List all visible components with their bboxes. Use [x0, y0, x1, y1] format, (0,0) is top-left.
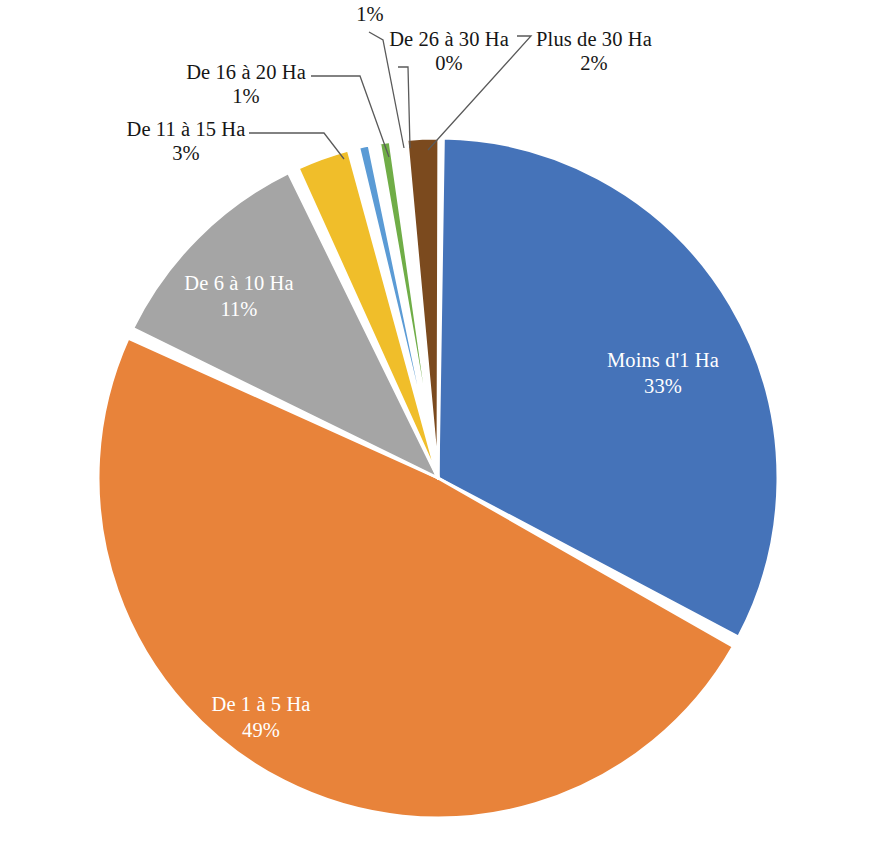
slice-label-de-1-a-5-ha-category: De 1 à 5 Ha [211, 692, 310, 718]
pie-chart: Moins d'1 Ha 33% De 1 à 5 Ha 49% De 6 à … [0, 0, 884, 854]
leader-line-de-16-a-20-ha [311, 76, 389, 157]
callout-label-de-21-a-25-ha-percent: 1% [356, 2, 384, 26]
slice-label-moins-d-1-ha-category: Moins d'1 Ha [607, 348, 719, 374]
callout-label-plus-de-30-ha-category: Plus de 30 Ha [536, 27, 652, 51]
callout-label-de-16-a-20-ha-category: De 16 à 20 Ha [186, 60, 306, 84]
slice-label-de-6-a-10-ha-category: De 6 à 10 Ha [184, 271, 293, 297]
slice-label-moins-d-1-ha: Moins d'1 Ha 33% [607, 348, 719, 399]
callout-label-plus-de-30-ha-percent: 2% [536, 51, 652, 75]
callout-label-de-26-a-30-ha: De 26 à 30 Ha 0% [389, 27, 509, 75]
callout-label-de-26-a-30-ha-category: De 26 à 30 Ha [389, 27, 509, 51]
callout-label-de-11-a-15-ha-percent: 3% [127, 141, 246, 165]
callout-label-de-21-a-25-ha: 1% [356, 2, 384, 26]
slice-label-de-6-a-10-ha-percent: 11% [184, 297, 293, 323]
callout-label-de-11-a-15-ha-category: De 11 à 15 Ha [127, 117, 246, 141]
callout-label-de-16-a-20-ha: De 16 à 20 Ha 1% [186, 60, 306, 108]
leader-line-de-26-a-30-ha [398, 67, 410, 148]
slice-label-de-1-a-5-ha: De 1 à 5 Ha 49% [211, 692, 310, 743]
callout-label-de-26-a-30-ha-percent: 0% [389, 51, 509, 75]
slice-label-de-6-a-10-ha: De 6 à 10 Ha 11% [184, 271, 293, 322]
slice-label-moins-d-1-ha-percent: 33% [607, 374, 719, 400]
slice-label-de-1-a-5-ha-percent: 49% [211, 718, 310, 744]
pie-slice-group [98, 138, 778, 818]
callout-label-de-16-a-20-ha-percent: 1% [186, 84, 306, 108]
callout-label-de-11-a-15-ha: De 11 à 15 Ha 3% [127, 117, 246, 165]
callout-label-plus-de-30-ha: Plus de 30 Ha 2% [536, 27, 652, 75]
